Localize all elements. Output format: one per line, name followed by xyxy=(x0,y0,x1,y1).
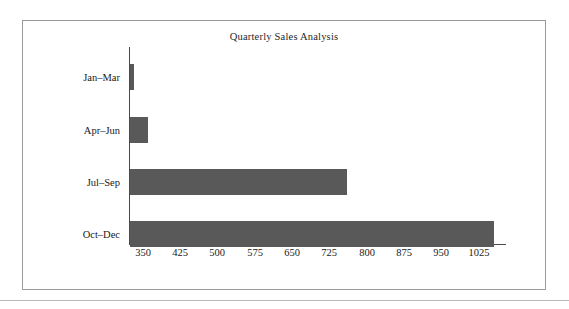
y-tick-label: Jan–Mar xyxy=(83,72,120,83)
page-divider xyxy=(0,300,569,301)
y-tick-label: Jul–Sep xyxy=(87,177,120,188)
y-tick-label: Apr–Jun xyxy=(84,125,120,136)
bar-apr-jun[interactable] xyxy=(130,117,148,143)
x-tick-label: 350 xyxy=(135,247,151,258)
x-tick-label: 500 xyxy=(209,247,225,258)
bar-jan-mar[interactable] xyxy=(130,64,134,90)
figure-frame: Quarterly Sales Analysis Jan–Mar Apr–Jun… xyxy=(22,20,546,290)
bar-oct-dec[interactable] xyxy=(130,221,494,247)
x-tick-label: 575 xyxy=(247,247,263,258)
x-tick-label: 725 xyxy=(321,247,337,258)
x-tick-label: 425 xyxy=(172,247,188,258)
x-tick-label: 650 xyxy=(284,247,300,258)
x-tick-label: 875 xyxy=(396,247,412,258)
x-tick-label: 1025 xyxy=(469,247,490,258)
y-tick-label: Oct–Dec xyxy=(83,229,120,240)
chart-title: Quarterly Sales Analysis xyxy=(23,31,545,42)
plot-area: Jan–Mar Apr–Jun Jul–Sep Oct–Dec 350 425 … xyxy=(129,47,509,244)
x-tick-label: 950 xyxy=(433,247,449,258)
bar-jul-sep[interactable] xyxy=(130,169,347,195)
x-tick-label: 800 xyxy=(359,247,375,258)
